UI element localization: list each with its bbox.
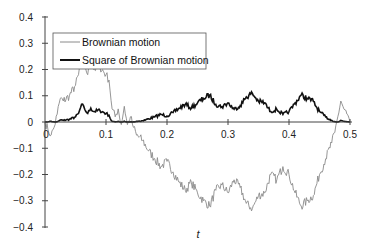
chart: 0.40.30.20.10−0.1−0.2−0.3−0.4 00.10.20.3… <box>0 0 377 247</box>
y-tick-label: 0 <box>27 117 33 128</box>
x-tick-label: 0.2 <box>160 129 174 140</box>
legend-label-square: Square of Brownian motion <box>82 54 209 66</box>
x-tick-label: 0.1 <box>99 129 113 140</box>
plot-area <box>45 54 350 211</box>
y-tick-label: −0.1 <box>13 143 33 154</box>
legend-label-brownian: Brownian motion <box>82 36 160 48</box>
y-tick-label: 0.3 <box>19 38 33 49</box>
y-tick-label: −0.3 <box>13 195 33 206</box>
y-tick-label: 0.4 <box>19 12 33 23</box>
series-brownian-motion <box>45 54 350 211</box>
x-tick-label: 0.4 <box>282 129 296 140</box>
legend: Brownian motion Square of Brownian motio… <box>53 33 209 69</box>
x-tick-label: 0 <box>43 129 49 140</box>
y-tick-label: −0.2 <box>13 169 33 180</box>
y-tick-label: −0.4 <box>13 222 33 233</box>
series-square-of-brownian-motion <box>45 92 350 122</box>
x-tick-label: 0.3 <box>221 129 235 140</box>
x-axis-label: t <box>196 228 200 240</box>
x-tick-label: 0.5 <box>343 129 357 140</box>
y-ticks: 0.40.30.20.10−0.1−0.2−0.3−0.4 <box>13 12 48 233</box>
y-tick-label: 0.2 <box>19 64 33 75</box>
y-tick-label: 0.1 <box>19 90 33 101</box>
